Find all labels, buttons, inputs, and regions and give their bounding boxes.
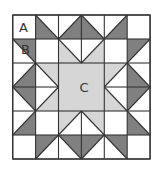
label-a: A — [19, 20, 28, 35]
square-piece — [104, 111, 127, 135]
label-b: B — [21, 42, 30, 57]
square-piece — [13, 135, 36, 159]
quilt-block-diagram: A B C — [0, 0, 157, 169]
square-piece — [104, 39, 127, 63]
square-piece — [127, 15, 150, 39]
square-piece — [36, 39, 59, 63]
square-piece — [36, 111, 59, 135]
label-c: C — [80, 80, 89, 95]
square-piece — [127, 135, 150, 159]
